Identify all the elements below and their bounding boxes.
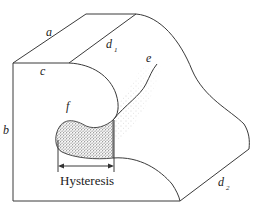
label-a: a — [46, 25, 52, 39]
label-c: c — [40, 64, 46, 78]
stipple-cloud — [113, 59, 162, 142]
fold-lower-curve — [113, 158, 180, 201]
diagonal-edge-d2 — [180, 149, 249, 201]
hysteresis-block-diagram: a b c d 1 d 2 e f Hysteresis — [0, 0, 264, 212]
label-d1-subscript: 1 — [114, 46, 118, 54]
label-hysteresis: Hysteresis — [60, 173, 114, 188]
fold-upper-curve — [69, 63, 118, 120]
label-e: e — [146, 51, 152, 65]
label-f: f — [66, 99, 71, 113]
arrowhead-left-icon — [58, 164, 64, 169]
label-d2-subscript: 2 — [226, 184, 230, 192]
label-b: b — [3, 123, 9, 137]
label-d1: d — [106, 37, 113, 51]
diagonal-edge-d1 — [69, 14, 136, 63]
label-d2: d — [218, 175, 225, 189]
hysteresis-region — [56, 120, 113, 159]
arrowhead-right-icon — [108, 164, 114, 169]
